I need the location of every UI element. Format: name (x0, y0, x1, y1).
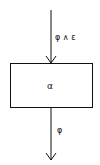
block-label: α (47, 81, 53, 91)
input-edge-label: φ ∧ ε (55, 33, 76, 42)
output-edge-label: φ (57, 126, 62, 135)
flow-diagram: φ ∧ ε α φ (0, 0, 100, 165)
output-arrow (46, 108, 56, 160)
